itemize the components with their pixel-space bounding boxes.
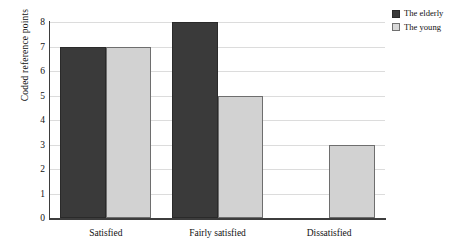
y-axis-tick-labels: 012345678 bbox=[0, 22, 45, 218]
plot-area bbox=[50, 22, 385, 218]
gridline bbox=[50, 22, 385, 23]
bar-chart: Coded reference points 012345678 Satisfi… bbox=[0, 0, 466, 250]
y-tick-label: 4 bbox=[5, 115, 45, 125]
x-category-label: Satisfied bbox=[89, 228, 122, 238]
bar bbox=[106, 47, 152, 219]
y-tick-label: 1 bbox=[5, 189, 45, 199]
bar bbox=[172, 22, 218, 218]
y-tick-label: 8 bbox=[5, 17, 45, 27]
y-axis-line bbox=[49, 21, 50, 219]
y-tick-label: 5 bbox=[5, 91, 45, 101]
legend-item-label: The elderly bbox=[404, 8, 443, 20]
x-axis-line bbox=[49, 218, 386, 220]
bar bbox=[218, 96, 264, 219]
bar bbox=[60, 47, 106, 219]
legend-swatch-icon bbox=[392, 23, 400, 31]
bar bbox=[329, 145, 375, 219]
legend-item[interactable]: The young bbox=[392, 22, 443, 34]
y-tick-label: 2 bbox=[5, 164, 45, 174]
legend: The elderlyThe young bbox=[392, 8, 443, 35]
legend-swatch-icon bbox=[392, 10, 400, 18]
x-category-label: Fairly satisfied bbox=[189, 228, 246, 238]
legend-item[interactable]: The elderly bbox=[392, 8, 443, 20]
legend-item-label: The young bbox=[404, 22, 441, 34]
y-tick-label: 6 bbox=[5, 66, 45, 76]
x-category-label: Dissatisfied bbox=[307, 228, 352, 238]
y-tick-label: 3 bbox=[5, 140, 45, 150]
y-tick-label: 7 bbox=[5, 42, 45, 52]
y-tick-label: 0 bbox=[5, 213, 45, 223]
